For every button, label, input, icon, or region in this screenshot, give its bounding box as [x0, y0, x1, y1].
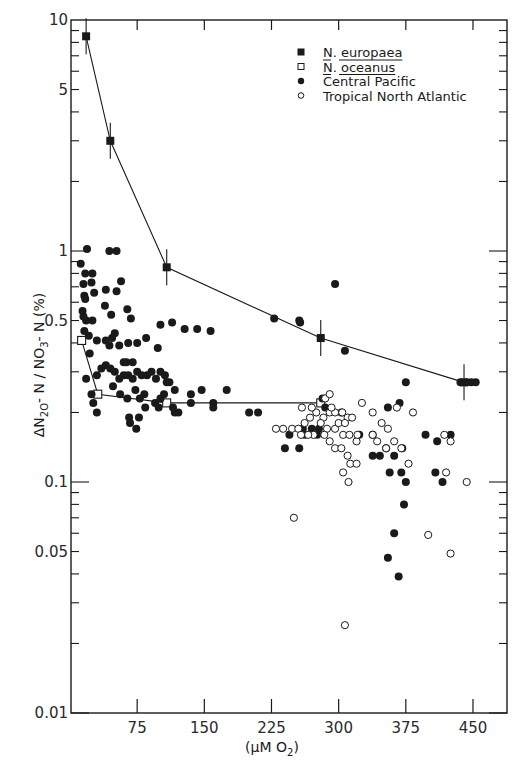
filled-circle-marker [131, 386, 139, 394]
filled-circle-marker [155, 404, 163, 412]
filled-circle-marker [223, 386, 231, 394]
filled-circle-marker [369, 452, 377, 460]
filled-circle-marker [141, 404, 149, 412]
open-circle-marker [348, 414, 355, 421]
open-circle-marker [317, 419, 324, 426]
filled-circle-marker [295, 444, 303, 452]
filled-circle-marker [129, 358, 137, 366]
filled-circle-marker [113, 287, 121, 295]
filled-circle-marker [87, 390, 95, 398]
filled-circle-marker [113, 247, 121, 255]
filled-square-icon [298, 49, 305, 56]
open-circle-marker [297, 431, 304, 438]
filled-square-marker [82, 32, 90, 40]
filled-circle-marker [142, 334, 150, 342]
legend-item: N. europaea [298, 45, 403, 60]
open-circle-marker [338, 445, 345, 452]
open-circle-marker [321, 431, 328, 438]
filled-circle-marker [89, 399, 97, 407]
open-circle-marker [463, 478, 470, 485]
x-axis-title: (μM O2) [245, 739, 299, 758]
filled-circle-marker [87, 279, 95, 287]
filled-circle-marker [109, 382, 117, 390]
open-square-icon [298, 64, 304, 70]
legend-label: N. oceanus [323, 60, 396, 75]
filled-circle-marker [102, 286, 110, 294]
filled-circle-marker [386, 468, 394, 476]
filled-circle-marker [129, 375, 137, 383]
filled-circle-marker [85, 332, 93, 340]
open-circle-marker [298, 404, 305, 411]
filled-circle-marker [86, 349, 94, 357]
open-circle-marker [353, 460, 360, 467]
filled-circle-marker [422, 431, 430, 439]
x-tick-label: 150 [190, 719, 219, 737]
filled-circle-marker [116, 390, 124, 398]
x-tick-label: 75 [128, 719, 147, 737]
y-tick-label: 10 [49, 11, 68, 29]
open-circle-marker [369, 409, 376, 416]
filled-circle-marker [140, 390, 148, 398]
filled-circle-marker [254, 408, 262, 416]
open-circle-marker [447, 438, 454, 445]
open-circle-marker [308, 404, 315, 411]
open-circle-marker [374, 438, 381, 445]
filled-circle-marker [123, 305, 131, 313]
x-tick-label: 300 [324, 719, 353, 737]
open-circle-marker [391, 438, 398, 445]
plot-border [71, 20, 507, 713]
axis-ticks [71, 20, 507, 713]
filled-circle-marker [433, 437, 441, 445]
scatter-chart: 751502253003754500.010.050.10.51510 N. e… [0, 0, 523, 764]
y-tick-label: 0.1 [44, 473, 68, 491]
open-circle-marker [393, 404, 400, 411]
filled-circle-marker [174, 408, 182, 416]
filled-circle-marker [105, 341, 113, 349]
open-circle-marker [326, 391, 333, 398]
filled-circle-marker [402, 478, 410, 486]
y-tick-label: 0.05 [35, 543, 68, 561]
plot-frame [71, 20, 507, 713]
open-circle-marker [305, 431, 312, 438]
filled-circle-marker [111, 368, 119, 376]
filled-circle-marker [187, 399, 195, 407]
filled-circle-marker [156, 321, 164, 329]
filled-circle-marker [431, 468, 439, 476]
filled-circle-marker [397, 468, 405, 476]
filled-circle-marker [81, 269, 89, 277]
open-circle-marker [383, 445, 390, 452]
filled-circle-marker [107, 311, 115, 319]
filled-circle-marker [384, 404, 392, 412]
filled-circle-marker [198, 386, 206, 394]
filled-circle-marker [376, 452, 384, 460]
open-circle-marker [345, 478, 352, 485]
open-circle-marker [405, 460, 412, 467]
filled-circle-marker [81, 295, 89, 303]
open-circle-marker [425, 531, 432, 538]
open-circle-marker [344, 452, 351, 459]
open-circle-marker [341, 622, 348, 629]
filled-circle-icon [298, 78, 304, 84]
filled-circle-marker [105, 247, 113, 255]
x-tick-label: 225 [257, 719, 286, 737]
filled-circle-marker [77, 260, 85, 268]
filled-circle-marker [135, 414, 143, 422]
filled-circle-marker [402, 378, 410, 386]
open-circle-marker [398, 445, 405, 452]
open-circle-marker [358, 399, 365, 406]
filled-circle-marker [161, 371, 169, 379]
open-circle-marker [326, 438, 333, 445]
open-circle-marker [369, 431, 376, 438]
filled-circle-marker [111, 329, 119, 337]
filled-circle-marker [88, 269, 96, 277]
open-circle-marker [306, 414, 313, 421]
filled-circle-marker [93, 408, 101, 416]
open-circle-marker [290, 514, 297, 521]
filled-circle-marker [115, 341, 123, 349]
filled-circle-marker [439, 478, 447, 486]
filled-square-marker [317, 334, 325, 342]
open-circle-marker [443, 469, 450, 476]
filled-circle-marker [395, 572, 403, 580]
filled-circle-marker [331, 280, 339, 288]
filled-circle-marker [390, 452, 398, 460]
